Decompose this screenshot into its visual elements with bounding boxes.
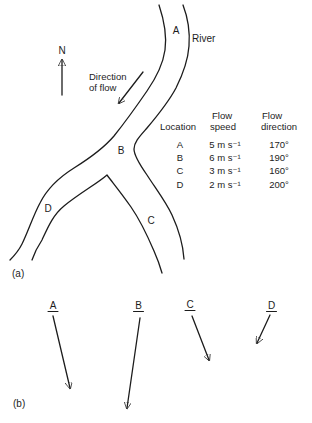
table-header-location: Location [160,122,196,132]
table-row-a-speed: 5 m s⁻¹ [209,140,240,150]
map-location-b: B [118,145,125,156]
map-location-d: D [44,203,51,214]
table-header-direction-line1: Flow [262,111,282,121]
table-row-a-direction: 170° [269,140,289,150]
vector-c-label: C [186,299,193,310]
table-row-b-direction: 190° [269,153,289,163]
table-row-d-direction: 200° [269,180,289,190]
vector-panel: A B C D (b) [0,290,312,423]
vector-a-label: A [50,300,57,311]
river-fork-banks [32,175,162,273]
map-location-c: C [147,215,154,226]
vector-b-label: B [135,300,142,311]
panel-a-tag: (a) [12,268,24,279]
table-row-d-location: D [177,180,184,190]
river-map-panel: N Direction of flow A River B D C (a) [0,0,312,290]
figure-river-flow: N Direction of flow A River B D C (a) Fl… [0,0,312,423]
vector-c-arrow [192,316,209,360]
table-row-c-speed: 3 m s⁻¹ [209,166,240,176]
table-row-a-location: A [177,140,183,150]
table-row-b-location: B [177,153,183,163]
vector-b-arrow [127,318,140,408]
vector-a-arrow [53,316,70,388]
table-row-c-location: C [177,166,184,176]
flow-direction-label-line2: of flow [89,82,117,93]
table-header-speed-line2: speed [210,122,236,132]
north-label: N [58,45,65,56]
table-header-speed-line1: Flow [212,111,232,121]
vector-d-label: D [268,300,275,311]
map-location-a: A [173,25,180,36]
river-label: River [192,33,216,44]
flow-direction-label-line1: Direction [89,71,127,82]
table-header-direction-line2: direction [261,122,297,132]
vector-d-arrow [257,315,270,343]
table-row-c-direction: 160° [269,166,289,176]
table-row-b-speed: 6 m s⁻¹ [209,153,240,163]
panel-b-tag: (b) [13,398,25,409]
table-row-d-speed: 2 m s⁻¹ [209,180,240,190]
